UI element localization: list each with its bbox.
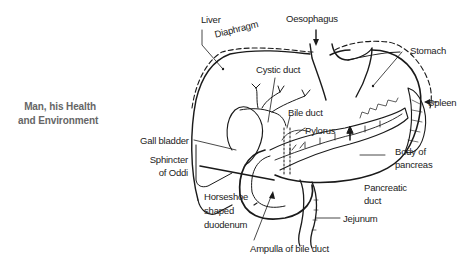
sphincter-pointer [200,166,274,180]
label-oesophagus: Oesophagus [286,12,338,25]
label-ampulla-of-bile-duct: Ampulla of bile duct [250,242,329,255]
horseshoe-arrow [254,203,257,205]
pancreatic-duct [275,114,402,160]
label-body-of-pancreas: Body of pancreas [395,145,432,171]
hepatic-ducts [240,84,310,126]
label-sphincter-of-oddi: Sphincter of Oddi [148,153,188,179]
label-pylorus: Pylorus [305,124,335,137]
label-pancreatic-duct: Pancreatic duct [364,181,407,207]
label-cystic-duct: Cystic duct [256,63,300,76]
stomach-pointer [373,52,402,86]
label-bile-duct: Bile duct [288,106,323,119]
spleen-outline [405,88,426,153]
label-jejunum: Jejunum [343,212,378,225]
label-spleen: Spleen [428,96,456,109]
label-horseshoe-duodenum: Horseshoe shaped duodenum [204,190,248,232]
pylorus-pointer [296,128,305,134]
jejunum [299,180,317,248]
label-stomach: Stomach [410,44,446,57]
gall-bladder [227,107,262,165]
label-liver: Liver [201,13,221,26]
label-gall-bladder: Gall bladder [140,134,189,147]
